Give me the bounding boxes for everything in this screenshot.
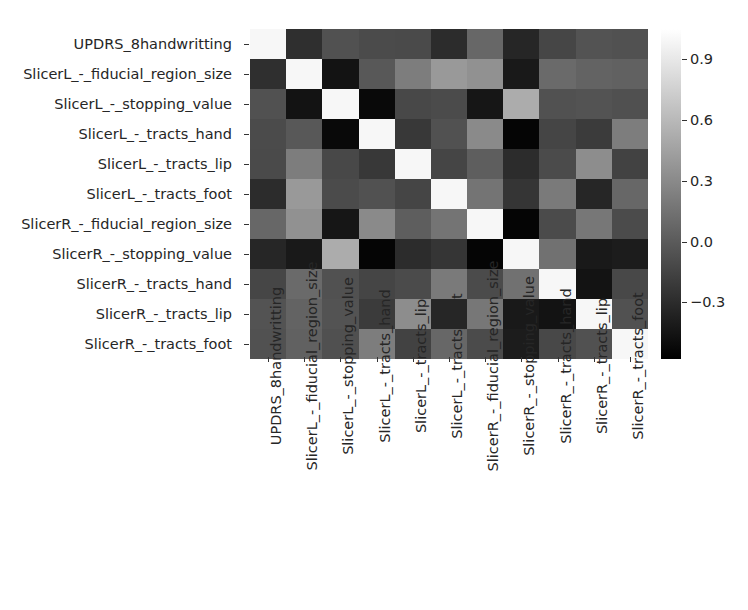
- heatmap-cell: [576, 59, 612, 89]
- heatmap-cell: [539, 89, 575, 119]
- heatmap-cell: [612, 239, 648, 269]
- heatmap-cell: [612, 89, 648, 119]
- heatmap-cell: [503, 179, 539, 209]
- heatmap-cell: [286, 119, 322, 149]
- heatmap-cell: [467, 59, 503, 89]
- y-tick-mark: [244, 164, 249, 165]
- colorbar-tick-label: 0.3: [690, 174, 713, 189]
- heatmap-cell: [467, 209, 503, 239]
- heatmap-cell: [576, 89, 612, 119]
- heatmap-cell: [322, 119, 358, 149]
- heatmap-cell: [539, 179, 575, 209]
- heatmap-cell: [503, 149, 539, 179]
- heatmap-cell: [395, 119, 431, 149]
- heatmap-cell: [576, 209, 612, 239]
- heatmap-cell: [395, 89, 431, 119]
- x-axis-labels: UPDRS_8handwrittingSlicerL_-_fiducial_re…: [250, 362, 648, 602]
- heatmap-cell: [503, 209, 539, 239]
- heatmap-cell: [359, 29, 395, 59]
- y-tick-label: SlicerL_-_stopping_value: [54, 89, 242, 119]
- y-tick-mark: [244, 254, 249, 255]
- heatmap-cell: [250, 29, 286, 59]
- correlation-heatmap-figure: UPDRS_8handwrittingSlicerL_-_fiducial_re…: [0, 0, 748, 610]
- heatmap-cell: [286, 149, 322, 179]
- y-tick-label: SlicerL_-_tracts_foot: [87, 179, 242, 209]
- heatmap-cell: [431, 209, 467, 239]
- y-tick-label: SlicerL_-_fiducial_region_size: [23, 59, 242, 89]
- colorbar-tick-mark: [682, 181, 687, 182]
- heatmap-cell: [539, 119, 575, 149]
- x-tick-label: SlicerL_-_tracts_lip: [413, 299, 429, 433]
- heatmap-cell: [612, 59, 648, 89]
- y-tick-mark: [244, 74, 249, 75]
- x-tick-label-wrap: SlicerR_-_tracts_hand: [539, 362, 575, 372]
- heatmap-cell: [431, 239, 467, 269]
- heatmap-cell: [359, 149, 395, 179]
- heatmap-cell: [322, 239, 358, 269]
- heatmap-cell: [503, 119, 539, 149]
- y-tick-label: SlicerR_-_tracts_foot: [85, 329, 242, 359]
- heatmap-cell: [612, 119, 648, 149]
- colorbar-tick-label: −0.3: [690, 295, 725, 310]
- heatmap-cell: [359, 209, 395, 239]
- heatmap-cell: [286, 29, 322, 59]
- heatmap-cell: [359, 119, 395, 149]
- heatmap-cell: [467, 179, 503, 209]
- heatmap-cell: [322, 59, 358, 89]
- y-tick-mark: [244, 104, 249, 105]
- y-tick-label: SlicerR_-_fiducial_region_size: [21, 209, 242, 239]
- heatmap-cell: [395, 239, 431, 269]
- heatmap-cell: [395, 209, 431, 239]
- heatmap-cell: [576, 269, 612, 299]
- heatmap-cell: [576, 29, 612, 59]
- x-tick-label-wrap: SlicerR_-_tracts_foot: [612, 362, 648, 372]
- x-tick-label-wrap: SlicerR_-_stopping_value: [503, 362, 539, 372]
- heatmap-cell: [576, 179, 612, 209]
- colorbar-tick-label: 0.9: [690, 52, 713, 67]
- y-tick-mark: [244, 284, 249, 285]
- heatmap-cell: [576, 119, 612, 149]
- heatmap-cell: [286, 179, 322, 209]
- y-axis-labels: UPDRS_8handwrittingSlicerL_-_fiducial_re…: [0, 29, 242, 359]
- heatmap-cell: [539, 149, 575, 179]
- x-tick-label: SlicerR_-_tracts_hand: [558, 288, 574, 443]
- y-tick-label: SlicerR_-_stopping_value: [52, 239, 242, 269]
- heatmap-cell: [431, 29, 467, 59]
- heatmap-cell: [395, 59, 431, 89]
- heatmap-cell: [250, 179, 286, 209]
- heatmap-cell: [322, 89, 358, 119]
- x-tick-label: SlicerR_-_tracts_lip: [594, 298, 610, 434]
- heatmap-cell: [503, 89, 539, 119]
- heatmap-cell: [395, 179, 431, 209]
- x-tick-label: SlicerR_-_fiducial_region_size: [485, 261, 501, 472]
- heatmap-cell: [359, 59, 395, 89]
- x-tick-label-wrap: SlicerR_-_tracts_lip: [576, 362, 612, 372]
- heatmap-cell: [250, 239, 286, 269]
- heatmap-cell: [250, 119, 286, 149]
- heatmap-cell: [612, 149, 648, 179]
- x-tick-label-wrap: SlicerL_-_tracts_hand: [359, 362, 395, 372]
- colorbar-tick-mark: [682, 302, 687, 303]
- y-tick-mark: [244, 44, 249, 45]
- heatmap-cell: [322, 209, 358, 239]
- heatmap-cell: [467, 119, 503, 149]
- y-tick-label: SlicerL_-_tracts_lip: [98, 149, 242, 179]
- y-tick-mark: [244, 344, 249, 345]
- heatmap-cell: [576, 149, 612, 179]
- heatmap-cell: [539, 59, 575, 89]
- heatmap-cell: [250, 149, 286, 179]
- heatmap-cell: [322, 149, 358, 179]
- colorbar-tick-label: 0.6: [690, 113, 713, 128]
- heatmap-cell: [467, 29, 503, 59]
- heatmap-cell: [467, 149, 503, 179]
- heatmap-cell: [431, 149, 467, 179]
- heatmap-cell: [612, 209, 648, 239]
- x-tick-label-wrap: SlicerL_-_tracts_foot: [431, 362, 467, 372]
- colorbar-tick-mark: [682, 120, 687, 121]
- x-tick-label-wrap: SlicerR_-_fiducial_region_size: [467, 362, 503, 372]
- x-tick-label: SlicerL_-_stopping_value: [340, 277, 356, 455]
- x-tick-label: UPDRS_8handwritting: [268, 287, 284, 445]
- heatmap-cell: [503, 29, 539, 59]
- y-tick-mark: [244, 134, 249, 135]
- heatmap-cell: [503, 59, 539, 89]
